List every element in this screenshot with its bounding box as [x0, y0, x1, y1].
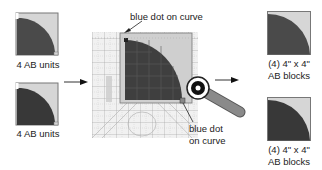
- quarter-circle-block-icon: [267, 97, 311, 141]
- quarter-circle-block-icon: [267, 11, 311, 55]
- quarter-circle-unit-icon: [15, 82, 59, 126]
- ab-unit-top: [15, 12, 55, 54]
- ab-unit-bottom: [15, 82, 55, 124]
- left-unit-label-bottom: 4 AB units: [14, 128, 62, 139]
- right-block-label-top-2: AB blocks: [262, 70, 316, 81]
- right-block-label-bottom-1: (4) 4" x 4": [262, 144, 316, 155]
- right-block-label-bottom-2: AB blocks: [262, 156, 316, 167]
- ab-block-top: [267, 11, 311, 55]
- callout-blue-dot-bottom-2: on curve: [189, 135, 225, 146]
- callout-blue-dot-bottom-1: blue dot: [189, 123, 223, 134]
- left-unit-label-top: 4 AB units: [14, 59, 62, 70]
- quarter-circle-unit-icon: [15, 12, 59, 56]
- right-block-label-top-1: (4) 4" x 4": [262, 58, 316, 69]
- arrow-right-icon: [215, 76, 239, 84]
- arrow-right-icon: [64, 78, 88, 86]
- callout-pointer-top: [124, 20, 144, 34]
- ab-block-bottom: [267, 97, 311, 141]
